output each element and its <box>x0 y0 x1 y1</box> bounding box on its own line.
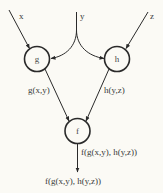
edge-label-h-out: h(y,z) <box>104 85 125 95</box>
node-g-label: g <box>35 54 40 64</box>
computation-graph-diagram: g h f x y z g(x,y) h(y,z) f(g(x,y), h(y,… <box>0 0 163 193</box>
edge-g-to-f <box>45 69 69 121</box>
edge-label-f-out: f(g(x,y), h(y,z)) <box>81 147 137 157</box>
input-y-label: y <box>80 11 85 21</box>
edge-y-to-g <box>51 30 77 59</box>
edge-y-to-h <box>77 30 105 59</box>
input-z-label: z <box>150 11 154 21</box>
diagram-svg: g h f x y z g(x,y) h(y,z) f(g(x,y), h(y,… <box>0 0 163 193</box>
edge-h-to-f <box>86 69 109 121</box>
edge-z-to-h <box>126 12 148 49</box>
input-x-label: x <box>19 11 24 21</box>
edge-label-g-out: g(x,y) <box>28 85 50 95</box>
node-f-label: f <box>76 126 79 136</box>
output-label: f(g(x,y), h(y,z)) <box>45 176 101 186</box>
node-h-label: h <box>115 54 120 64</box>
